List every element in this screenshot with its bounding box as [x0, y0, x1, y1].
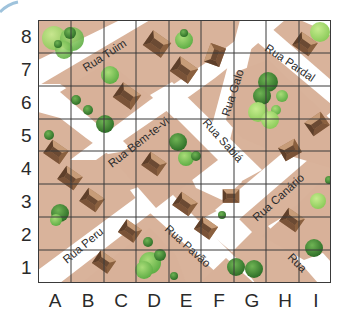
column-labels: A B C D E F G H I [49, 290, 319, 311]
col-label-b: B [82, 290, 95, 311]
row-labels: 8 7 6 5 4 3 2 1 [21, 26, 32, 278]
row-label-7: 7 [21, 59, 32, 80]
grid-map: Rua Tuim Rua Bem-te-vi Rua Sabiá Rua Gal… [0, 0, 356, 321]
row-label-5: 5 [21, 125, 32, 146]
house [223, 189, 240, 203]
col-label-c: C [114, 290, 128, 311]
col-label-h: H [278, 290, 292, 311]
col-label-e: E [180, 290, 193, 311]
col-label-i: I [313, 290, 318, 311]
col-label-g: G [245, 290, 260, 311]
col-label-f: F [213, 290, 225, 311]
col-label-d: D [147, 290, 161, 311]
row-label-8: 8 [21, 26, 32, 47]
corner-arc-decoration [0, 2, 18, 12]
row-label-1: 1 [21, 257, 32, 278]
row-label-2: 2 [21, 224, 32, 245]
col-label-a: A [49, 290, 62, 311]
row-label-3: 3 [21, 191, 32, 212]
row-label-4: 4 [21, 158, 32, 179]
row-label-6: 6 [21, 92, 32, 113]
